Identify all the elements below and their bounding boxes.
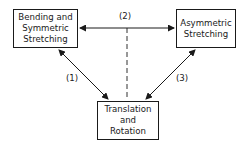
node-translation-rotation: Translation and Rotation	[97, 101, 159, 140]
node-text-line: Asymmetric	[180, 18, 232, 29]
node-text-line: and	[120, 115, 136, 126]
node-text-line: Stretching	[23, 34, 67, 45]
node-bending-symmetric-stretching: Bending and Symmetric Stretching	[13, 9, 78, 48]
node-asymmetric-stretching: Asymmetric Stretching	[176, 9, 236, 48]
node-text-line: Stretching	[184, 29, 228, 40]
edge-2-label: (2)	[119, 11, 131, 21]
edge-3-label: (3)	[176, 73, 188, 83]
node-text-line: Bending and	[18, 12, 72, 23]
node-text-line: Symmetric	[22, 23, 69, 34]
edge-1-label: (1)	[66, 73, 78, 83]
node-text-line: Rotation	[110, 126, 146, 137]
node-text-line: Translation	[105, 104, 152, 115]
